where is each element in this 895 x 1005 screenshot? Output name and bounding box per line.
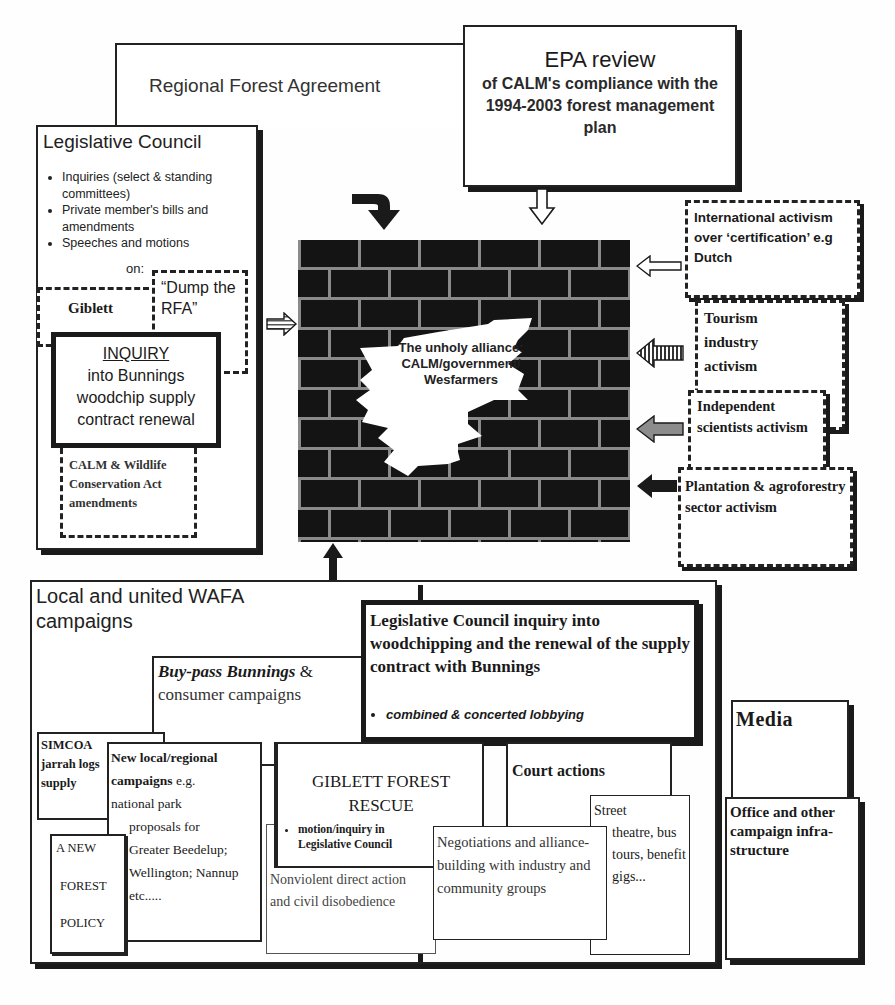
negotiations-label: Negotiations and alliance-building with … (437, 831, 605, 900)
list-item: combined & concerted lobbying (386, 707, 684, 722)
lc-inquiry-title: Legislative Council inquiry into woodchi… (370, 609, 696, 678)
giblett-label: Giblett (68, 300, 113, 317)
new-local-line3: proposals for Greater Beedelup; Wellingt… (111, 815, 239, 907)
new-forest-policy-line2: FOREST (60, 879, 107, 894)
scientists-activism-box: Independent scientists activism (688, 390, 826, 470)
tourism-activism-label: Tourism industry activism (704, 306, 784, 378)
street-theatre-rest: theatre, bus tours, benefit gigs... (612, 822, 686, 888)
new-local-campaigns-text: New local/regional campaigns e.g. nation… (111, 746, 263, 907)
dump-rfa-label: “Dump the RFA” (161, 277, 241, 319)
rfa-title: Regional Forest Agreement (149, 75, 380, 97)
new-local-bold: New local/regional campaigns (111, 750, 218, 788)
new-local-campaigns-box: New local/regional campaigns e.g. nation… (107, 742, 262, 942)
rfa-box: Regional Forest Agreement (115, 43, 475, 127)
inquiry-body: into Bunnings woodchip supply contract r… (56, 365, 216, 431)
on-label: on: (126, 261, 144, 276)
epa-title: EPA review (465, 47, 735, 73)
brick-wall: The unholy alliance: CALM/government/ We… (298, 240, 630, 542)
new-forest-policy-box: A NEW FOREST POLICY (50, 834, 126, 954)
international-activism-box: International activism over ‘certificati… (685, 200, 860, 298)
inquiry-heading: INQUIRY (56, 343, 216, 365)
wall-label: The unholy alliance: CALM/government/ We… (396, 340, 526, 388)
office-title: Office and other campaign infra-structur… (730, 803, 858, 860)
new-forest-policy-line3: POLICY (60, 916, 105, 931)
solid-left-arrow-icon (636, 473, 678, 499)
outline-left-arrow-icon (636, 255, 682, 277)
plantation-activism-label: Plantation & agroforestry sector activis… (685, 476, 850, 518)
office-box: Office and other campaign infra-structur… (725, 797, 860, 960)
simcoa-label: SIMCOA jarrah logs supply (41, 736, 101, 793)
giblett-rescue-title: GIBLETT FOREST RESCUE (286, 770, 476, 818)
lc-inquiry-box: Legislative Council inquiry into woodchi… (361, 600, 699, 742)
buypass-label: Buy-pass Bunnings & consumer campaigns (158, 660, 368, 706)
vertical-striped-left-arrow-icon (636, 338, 684, 368)
list-item: Inquiries (select & standing committees) (62, 169, 250, 202)
calm-act-box: CALM & Wildlife Conservation Act amendme… (60, 448, 197, 538)
nonviolent-label: Nonviolent direct action and civil disob… (270, 869, 420, 913)
scientists-activism-label: Independent scientists activism (697, 396, 817, 438)
buypass-italic: Buy-pass Bunnings (158, 662, 295, 681)
street-theatre-first: Street (594, 800, 627, 822)
calm-act-label: CALM & Wildlife Conservation Act amendme… (69, 456, 194, 513)
striped-right-arrow-icon (266, 312, 298, 336)
stippled-left-arrow-icon (636, 415, 684, 443)
legislative-council-list: Inquiries (select & standing committees)… (40, 169, 250, 252)
curved-arrow-icon (350, 190, 410, 232)
plantation-activism-box: Plantation & agroforestry sector activis… (678, 467, 853, 567)
lc-inquiry-list: combined & concerted lobbying (364, 707, 684, 722)
outline-down-arrow-icon (528, 188, 556, 226)
buypass-amp: & (295, 662, 312, 681)
wafa-title: Local and united WAFA campaigns (36, 584, 276, 634)
new-forest-policy-line1: A NEW (56, 841, 96, 856)
court-actions-label: Court actions (512, 762, 605, 780)
negotiations-box: Negotiations and alliance-building with … (433, 826, 607, 940)
media-box: Media (731, 700, 849, 810)
buypass-rest: consumer campaigns (158, 685, 301, 704)
international-activism-label: International activism over ‘certificati… (694, 208, 844, 268)
list-item: Speeches and motions (62, 235, 250, 252)
epa-review-box: EPA review of CALM's compliance with the… (463, 25, 737, 187)
new-local-eg: e.g. (173, 773, 196, 788)
legislative-council-title: Legislative Council (43, 131, 201, 153)
inquiry-box: INQUIRY into Bunnings woodchip supply co… (51, 332, 221, 448)
new-local-line2: national park (111, 796, 182, 811)
media-title: Media (736, 708, 793, 731)
epa-subtitle: of CALM's compliance with the 1994-2003 … (465, 73, 735, 139)
list-item: Private member's bills and amendments (62, 202, 250, 235)
